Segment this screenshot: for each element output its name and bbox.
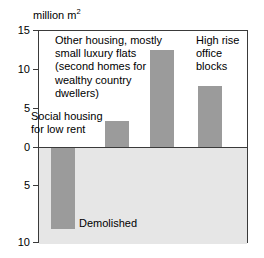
annotation-other-housing: Other housing, mostly small luxury flats… (55, 34, 162, 100)
y-axis-unit-exponent: 2 (76, 7, 80, 16)
y-tick-label-15: 15 (18, 25, 30, 36)
bar-social-housing (105, 121, 129, 147)
y-tick-label-minus5: 5 (24, 180, 30, 191)
bar-high-rise-office (198, 86, 222, 147)
y-axis-unit-text: million m (33, 9, 76, 21)
annotation-social-housing: Social housing for low rent (31, 110, 103, 136)
y-tick-label-minus10: 10 (18, 237, 30, 248)
y-tick-label-0: 0 (24, 142, 30, 153)
y-tick-label-10: 10 (18, 64, 30, 75)
bar-chart-figure: million m2 15 10 5 0 5 10 Other housing,… (0, 0, 264, 258)
y-axis-unit-label: million m2 (33, 9, 81, 21)
annotation-high-rise: High rise office blocks (196, 34, 239, 74)
bar-demolished (51, 148, 75, 229)
annotation-demolished: Demolished (79, 217, 137, 230)
y-tick-label-5: 5 (24, 103, 30, 114)
